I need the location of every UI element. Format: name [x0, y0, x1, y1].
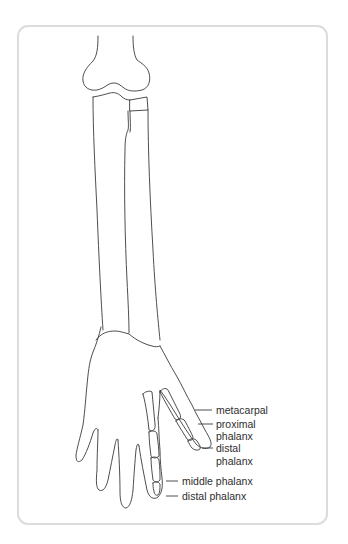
label-middle-phalanx: middle phalanx	[182, 475, 253, 487]
index-finger-bones	[143, 391, 160, 495]
label-proximal-phalanx-line1: proximal	[216, 418, 256, 430]
label-metacarpal: metacarpal	[216, 404, 268, 416]
ulna	[93, 93, 130, 333]
arm-skeleton-illustration	[0, 0, 348, 544]
label-distal-phalanx-thumb-line1: distal	[216, 442, 241, 454]
label-distal-phalanx: distal phalanx	[182, 490, 246, 502]
humerus	[83, 36, 150, 91]
wrist	[96, 331, 160, 347]
label-proximal-phalanx-line2: phalanx	[216, 430, 253, 442]
label-distal-phalanx-thumb-line2: phalanx	[216, 455, 253, 467]
radius	[130, 97, 160, 340]
